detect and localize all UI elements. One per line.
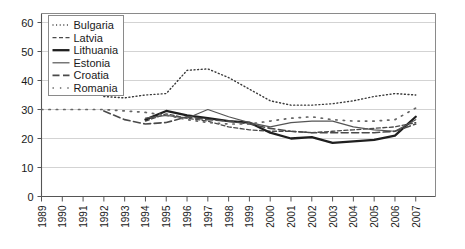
y-tick-label: 50 — [21, 46, 33, 58]
series-line-lithuania — [145, 111, 415, 143]
x-axis: 1989199019911992199319941995199619971998… — [37, 197, 436, 228]
line-chart: 0102030405060 19891990199119921993199419… — [0, 0, 465, 249]
y-tick-label: 60 — [21, 17, 33, 29]
x-tick-label: 1990 — [57, 205, 68, 228]
y-tick-label: 0 — [27, 191, 33, 203]
legend-label-romania: Romania — [74, 82, 119, 94]
x-tick-label: 2001 — [286, 205, 297, 228]
x-tick-label: 1995 — [161, 205, 172, 228]
legend-label-latvia: Latvia — [74, 32, 104, 44]
y-tick-label: 10 — [21, 162, 33, 174]
x-tick-label: 1999 — [244, 205, 255, 228]
x-tick-label: 1998 — [224, 205, 235, 228]
x-tick-label: 2004 — [348, 205, 359, 228]
series-line-bulgaria — [104, 69, 416, 105]
x-tick-label: 2003 — [328, 205, 339, 228]
x-tick-label: 2002 — [307, 205, 318, 228]
legend-label-estonia: Estonia — [74, 57, 112, 69]
x-tick-label: 1991 — [78, 205, 89, 228]
x-tick-label: 2005 — [369, 205, 380, 228]
x-tick-label: 1994 — [140, 205, 151, 228]
x-tick-label: 1993 — [120, 205, 131, 228]
x-tick-label: 2007 — [411, 205, 422, 228]
legend-label-croatia: Croatia — [74, 69, 110, 81]
x-tick-label: 1992 — [99, 205, 110, 228]
legend-label-bulgaria: Bulgaria — [74, 19, 115, 31]
x-tick-label: 2006 — [390, 205, 401, 228]
x-tick-label: 1996 — [182, 205, 193, 228]
series-line-estonia — [145, 110, 415, 132]
y-tick-label: 40 — [21, 75, 33, 87]
y-tick-label: 30 — [21, 104, 33, 116]
legend-label-lithuania: Lithuania — [74, 44, 120, 56]
y-axis: 0102030405060 — [21, 14, 41, 203]
x-tick-label: 1997 — [203, 205, 214, 228]
x-tick-label: 2000 — [265, 205, 276, 228]
x-tick-label: 1989 — [37, 205, 48, 228]
chart-canvas: 0102030405060 19891990199119921993199419… — [0, 0, 465, 249]
chart-legend: BulgariaLatviaLithuaniaEstoniaCroatiaRom… — [49, 16, 124, 96]
y-tick-label: 20 — [21, 133, 33, 145]
